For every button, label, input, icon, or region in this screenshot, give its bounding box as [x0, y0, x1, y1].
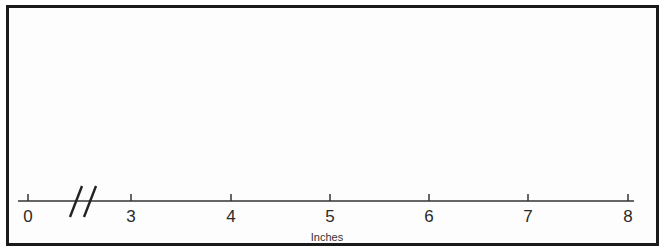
tick-label: 6: [424, 207, 433, 226]
number-line: 0345678 Inches: [0, 0, 665, 252]
axis-ticks: 0345678: [23, 194, 632, 226]
tick-label: 5: [325, 207, 334, 226]
tick-label: 3: [126, 207, 135, 226]
tick-label: 4: [226, 207, 235, 226]
tick-label: 8: [623, 207, 632, 226]
tick-label: 7: [523, 207, 532, 226]
tick-label: 0: [23, 207, 32, 226]
axis-label: Inches: [311, 231, 344, 243]
